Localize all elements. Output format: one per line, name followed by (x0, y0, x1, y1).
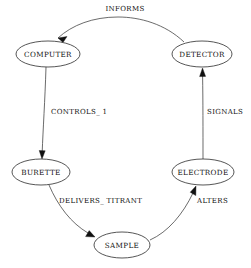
node-burette[interactable]: BURETTE (12, 159, 70, 185)
node-computer-label: COMPUTER (24, 50, 72, 59)
diagram-canvas: INFORMS CONTROLS_ 1 SIGNALS DELIVERS_ TI… (0, 0, 251, 268)
edge-signals[interactable]: SIGNALS (200, 68, 244, 159)
edge-alters-arrowhead (190, 186, 196, 196)
node-detector-label: DETECTOR (179, 50, 225, 59)
edge-alters[interactable]: ALTERS (150, 186, 228, 240)
node-sample-label: SAMPLE (105, 241, 139, 250)
node-electrode[interactable]: ELECTRODE (172, 159, 234, 185)
edge-controls-1-arrowhead (39, 151, 45, 160)
edge-informs[interactable]: INFORMS (58, 5, 184, 43)
node-sample[interactable]: SAMPLE (94, 232, 150, 258)
edge-signals-label: SIGNALS (207, 108, 243, 116)
edge-controls-1-path (42, 67, 46, 152)
node-electrode-label: ELECTRODE (177, 168, 228, 177)
edge-informs-label: INFORMS (105, 5, 144, 13)
edge-delivers-titrant-label: DELIVERS_ TITRANT (59, 197, 142, 205)
edge-alters-label: ALTERS (196, 197, 228, 205)
edge-signals-arrowhead (200, 68, 206, 77)
node-detector[interactable]: DETECTOR (172, 41, 232, 67)
edge-delivers-titrant-arrowhead (86, 231, 95, 237)
edge-controls-1-label: CONTROLS_ 1 (51, 108, 107, 116)
node-computer[interactable]: COMPUTER (16, 41, 80, 67)
edge-informs-path (58, 17, 184, 42)
edge-delivers-titrant-path (49, 185, 88, 233)
edge-controls-1[interactable]: CONTROLS_ 1 (39, 67, 107, 159)
edge-delivers-titrant[interactable]: DELIVERS_ TITRANT (49, 185, 142, 237)
graph-svg: INFORMS CONTROLS_ 1 SIGNALS DELIVERS_ TI… (0, 0, 251, 268)
edge-alters-path (150, 193, 193, 240)
node-burette-label: BURETTE (21, 168, 60, 177)
